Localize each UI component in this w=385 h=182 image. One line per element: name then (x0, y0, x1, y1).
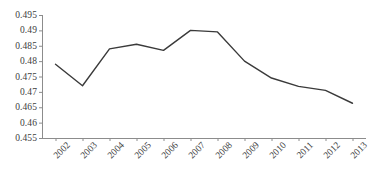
y-tick-label: 0.46 (20, 118, 37, 128)
y-tick-label: 0.465 (15, 102, 37, 112)
x-axis-tick-labels: 2002200320042005200620072008200920102011… (0, 140, 385, 182)
y-tick-label: 0.49 (20, 25, 37, 35)
y-tick-label: 0.47 (20, 87, 37, 97)
y-tick-label: 0.485 (15, 41, 37, 51)
y-tick-label: 0.495 (15, 10, 37, 20)
data-series-line (56, 30, 353, 103)
data-series-svg (42, 15, 366, 138)
line-chart: 0.4950.490.4850.480.4750.470.4650.460.45… (0, 0, 385, 182)
y-tick-label: 0.48 (20, 56, 37, 66)
plot-area (42, 15, 366, 138)
y-tick-label: 0.475 (15, 72, 37, 82)
